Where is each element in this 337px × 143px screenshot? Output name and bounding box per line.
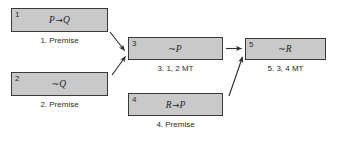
node-3-caption: 3. 1, 2 MT	[128, 64, 223, 73]
node-1-expression: P→Q	[12, 15, 107, 25]
proof-diagram: 1 P→Q 1. Premise 2 ~Q 2. Premise 3 ~P 3.…	[0, 0, 337, 143]
node-5-operator	[292, 44, 293, 54]
node-5-caption: 5. 3, 4 MT	[245, 64, 326, 73]
arrow-node4-to-node5	[229, 57, 243, 96]
node-2-operator	[66, 79, 67, 89]
proof-node-2: 2 ~Q	[11, 72, 108, 96]
arrow-node2-to-node3	[112, 57, 126, 76]
node-3-operator	[182, 44, 183, 54]
node-4-expression: R→P	[129, 100, 222, 110]
node-5-prefix: ~	[278, 44, 286, 54]
node-5-left-term: R	[286, 44, 292, 54]
proof-node-1: 1 P→Q	[11, 8, 108, 32]
node-4-operator: →	[171, 100, 179, 110]
node-5-expression: ~R	[246, 44, 325, 54]
node-3-left-term: P	[176, 44, 182, 54]
node-4-caption: 4. Premise	[128, 120, 223, 129]
node-1-caption: 1. Premise	[11, 36, 108, 45]
arrow-node1-to-node3	[110, 32, 125, 51]
node-2-caption: 2. Premise	[11, 100, 108, 109]
proof-node-4: 4 R→P	[128, 93, 223, 116]
node-2-expression: ~Q	[12, 79, 107, 89]
proof-node-5: 5 ~R	[245, 38, 326, 60]
node-1-right-term: Q	[63, 15, 70, 25]
node-3-expression: ~P	[129, 44, 222, 54]
node-3-prefix: ~	[168, 44, 176, 54]
proof-node-3: 3 ~P	[128, 37, 223, 60]
node-4-right-term: P	[180, 100, 186, 110]
node-1-operator: →	[55, 15, 63, 25]
